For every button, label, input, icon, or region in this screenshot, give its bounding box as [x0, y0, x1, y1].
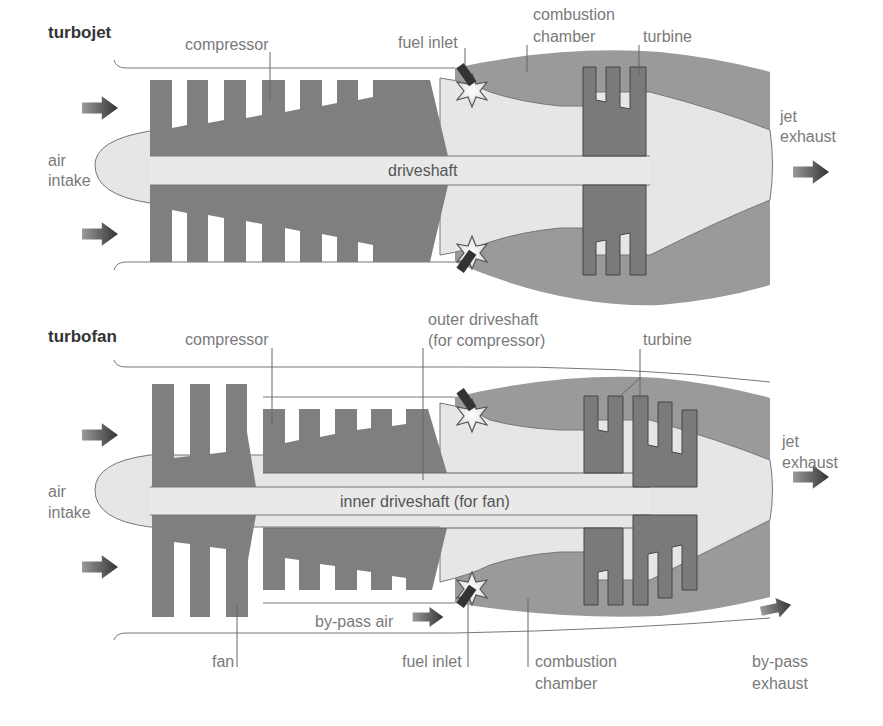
turbojet-turbine-label: turbine	[643, 28, 692, 45]
turbojet-turbine-top	[583, 67, 646, 156]
turbofan-fuel-inlet-label: fuel inlet	[402, 653, 462, 670]
turbojet-section: turbojet compres	[48, 6, 837, 305]
jet-engine-diagram: turbojet compres	[0, 0, 883, 726]
turbofan-turbine-label: turbine	[643, 331, 692, 348]
turbofan-casing-top-line	[114, 360, 770, 382]
turbojet-intake-arrow-bottom-icon	[82, 222, 118, 245]
turbofan-bypass-exhaust-label-2: exhaust	[752, 675, 809, 692]
turbojet-compressor-label: compressor	[185, 36, 269, 53]
turbojet-title: turbojet	[48, 23, 112, 42]
turbojet-air-label-2: intake	[48, 172, 91, 189]
turbojet-intake-arrow-top-icon	[82, 96, 118, 119]
turbofan-combustion-label-2: chamber	[535, 675, 598, 692]
turbojet-compressor-bottom	[150, 185, 448, 262]
turbofan-compressor-top	[263, 409, 447, 473]
turbofan-fan-top	[152, 384, 256, 487]
turbojet-casing-bottom-line	[114, 262, 455, 270]
turbofan-intake-arrow-bottom-icon	[82, 555, 118, 578]
turbofan-intake-arrow-top-icon	[82, 423, 118, 446]
turbofan-title: turbofan	[48, 327, 117, 346]
turbofan-section: turbofan	[48, 311, 839, 692]
turbofan-fan-bottom	[152, 515, 256, 617]
turbojet-turbine-bottom	[583, 185, 646, 275]
turbofan-jet-label-2: exhaust	[782, 454, 839, 471]
turbojet-fuel-inlet-label: fuel inlet	[398, 34, 458, 51]
turbofan-jet-label-1: jet	[781, 433, 799, 450]
turbojet-casing-top-line	[114, 60, 455, 68]
turbofan-air-label-1: air	[48, 483, 66, 500]
turbojet-compressor-top	[150, 80, 448, 156]
turbojet-combustion-label-2: chamber	[533, 28, 596, 45]
turbofan-combustion-label-1: combustion	[535, 653, 617, 670]
turbofan-outer-driveshaft-label-2: (for compressor)	[428, 332, 545, 349]
turbojet-jet-label-1: jet	[779, 108, 797, 125]
turbofan-compressor-label: compressor	[185, 331, 269, 348]
turbojet-combustion-label-1: combustion	[533, 6, 615, 23]
turbofan-bypass-exhaust-arrow-icon	[759, 595, 793, 621]
turbofan-bypass-air-arrow-icon	[413, 607, 444, 627]
turbojet-exhaust-arrow-icon	[793, 160, 829, 183]
turbofan-air-label-2: intake	[48, 504, 91, 521]
turbofan-inner-driveshaft-label: inner driveshaft (for fan)	[340, 493, 510, 510]
turbofan-compressor-bottom	[263, 528, 447, 590]
turbofan-casing-bottom-line	[114, 618, 770, 640]
turbofan-turbine-2-top	[633, 396, 697, 487]
turbojet-jet-label-2: exhaust	[780, 128, 837, 145]
turbofan-fan-label: fan	[212, 653, 234, 670]
turbojet-driveshaft-label: driveshaft	[388, 162, 458, 179]
turbofan-bypass-exhaust-label-1: by-pass	[752, 653, 808, 670]
turbofan-outer-driveshaft-label-1: outer driveshaft	[428, 311, 539, 328]
turbofan-bypass-air-label: by-pass air	[315, 613, 394, 630]
turbojet-air-label-1: air	[48, 152, 66, 169]
